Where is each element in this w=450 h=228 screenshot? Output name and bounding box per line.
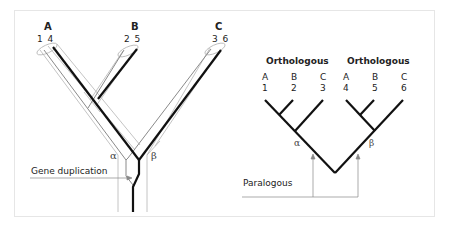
leaf-species-c1: C xyxy=(320,72,326,82)
leaf-gene-5: 5 xyxy=(372,83,378,93)
leaf-gene-4: 4 xyxy=(343,83,349,93)
gene-duplication-label: Gene duplication xyxy=(31,166,107,176)
leaf-species-b2: B xyxy=(372,72,378,82)
beta-label-right: β xyxy=(369,138,374,148)
leaf-species-a2: A xyxy=(343,72,350,82)
gene-tree-diagram: A B C 1 4 2 5 3 6 α β Gene duplication O… xyxy=(0,0,450,228)
paralogous-label: Paralogous xyxy=(243,178,293,188)
gene-numbers-c: 3 6 xyxy=(212,34,229,44)
gene-duplication-arrow xyxy=(30,176,132,180)
orthologous-title-1: Orthologous xyxy=(266,56,329,66)
leaf-gene-2: 2 xyxy=(291,83,297,93)
leaf-gene-1: 1 xyxy=(262,83,268,93)
gene-tree-branches xyxy=(265,100,403,173)
alpha-label-left: α xyxy=(110,150,117,161)
leaf-species-a1: A xyxy=(262,72,269,82)
species-label-b: B xyxy=(131,21,139,32)
orthologous-title-2: Orthologous xyxy=(347,56,410,66)
species-label-c: C xyxy=(215,21,222,32)
leaf-species-c2: C xyxy=(401,72,407,82)
leaf-species-b1: B xyxy=(291,72,297,82)
alpha-label-right: α xyxy=(294,138,300,148)
gene-numbers-b: 2 5 xyxy=(124,34,140,44)
gene-numbers-a: 1 4 xyxy=(37,34,54,44)
paralogous-bracket xyxy=(242,154,360,197)
leaf-gene-3: 3 xyxy=(320,83,326,93)
species-label-a: A xyxy=(44,21,52,32)
leaf-gene-6: 6 xyxy=(401,83,407,93)
beta-label-left: β xyxy=(151,150,157,161)
